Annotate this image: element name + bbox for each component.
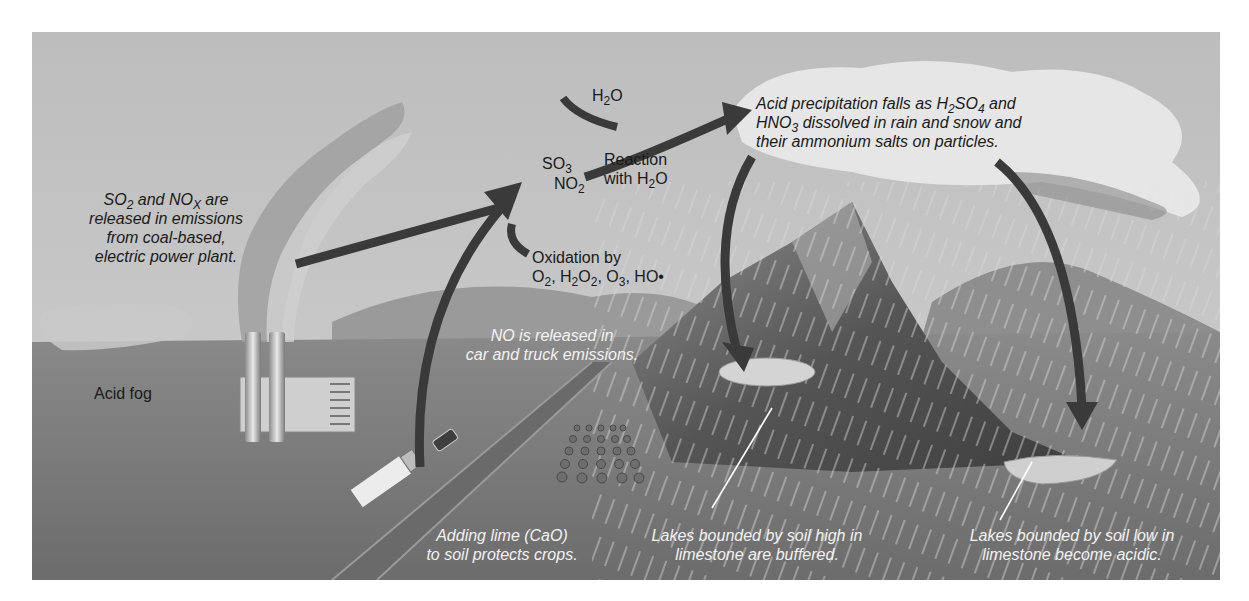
rain-icon: [592, 182, 1220, 580]
lime-label: Adding lime (CaO) to soil protects crops…: [402, 526, 602, 564]
acid-fog-label: Acid fog: [94, 384, 152, 403]
no-release-label: NO is released in car and truck emission…: [432, 326, 672, 364]
diagram-frame: SO2 and NOX are released in emissions fr…: [32, 32, 1220, 580]
no2-label: NO2: [554, 174, 585, 193]
h2o-label: H2O: [592, 86, 623, 105]
precipitation-label: Acid precipitation falls as H2SO4 and HN…: [756, 94, 1022, 151]
emissions-label: SO2 and NOX are released in emissions fr…: [40, 190, 292, 266]
lakes-low-label: Lakes bounded by soil low in limestone b…: [942, 526, 1202, 564]
so3-label: SO3: [542, 154, 572, 173]
scene-illustration: [32, 32, 1220, 580]
oxidation-label: Oxidation by O2, H2O2, O3, HO•: [532, 248, 664, 286]
reaction-label: Reaction with H2O: [604, 150, 668, 188]
lakes-high-label: Lakes bounded by soil high in limestone …: [632, 526, 882, 564]
lake-icon-buffered: [719, 358, 815, 386]
